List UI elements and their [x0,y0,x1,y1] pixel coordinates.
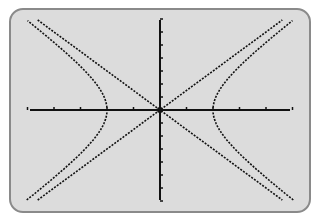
origin-point [157,107,163,113]
graph-plot [0,0,321,224]
